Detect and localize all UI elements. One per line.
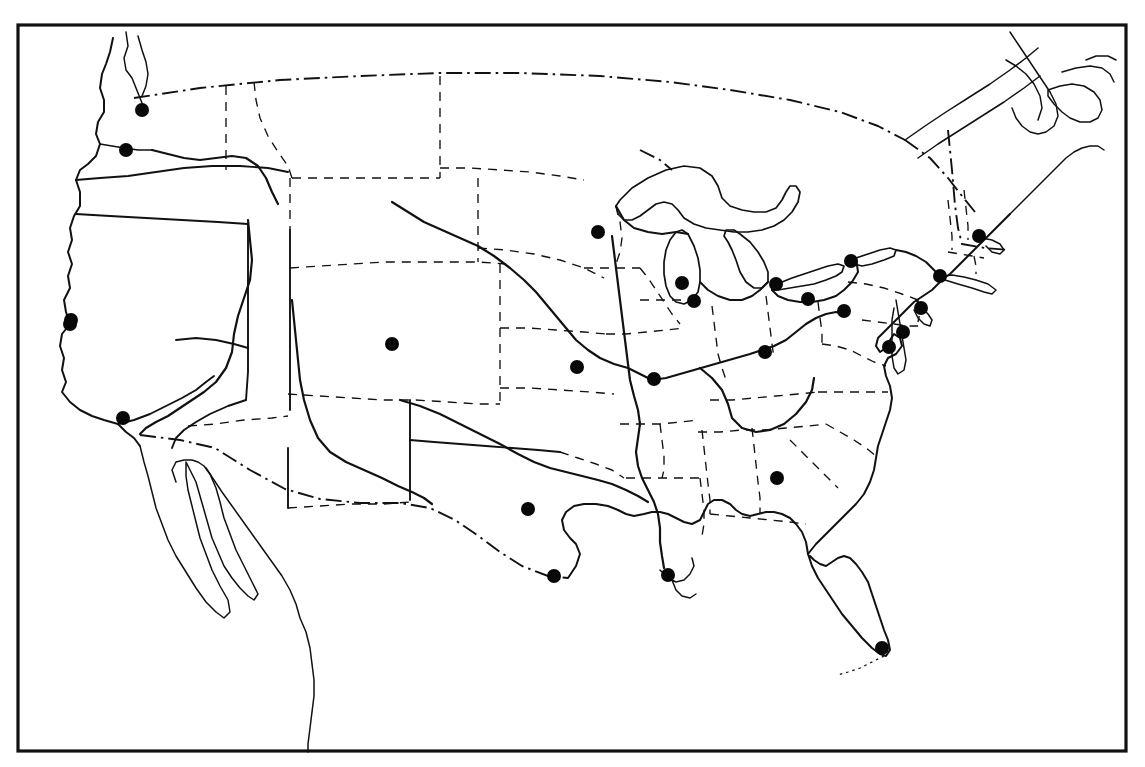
florida-keys — [838, 656, 884, 675]
state-border-ok-tx-east — [560, 452, 624, 478]
city-marker: Seattle — [135, 103, 149, 117]
mississippi-river — [612, 236, 664, 568]
state-border-nm-tx-south — [288, 502, 410, 508]
city-marker: Los Angeles — [116, 411, 130, 425]
state-border-ks-ok — [500, 388, 614, 394]
state-border-oh-pa — [818, 302, 822, 344]
columbia-snake-river — [152, 150, 278, 204]
arkansas-red-river — [400, 400, 648, 502]
city-marker: Buffalo — [844, 254, 858, 268]
state-border-nc-sc — [826, 424, 876, 456]
gulf-st-lawrence — [1062, 56, 1116, 82]
city-marker: Cleveland — [801, 292, 815, 306]
us-mexico-border — [140, 435, 568, 578]
city-marker: Cincinnati — [758, 345, 772, 359]
colorado-river — [140, 220, 252, 434]
state-border-ca-nv-line — [76, 214, 248, 224]
city-marker: Milwaukee — [675, 276, 689, 290]
missouri-river — [392, 202, 652, 380]
baja-california-peninsula — [140, 446, 258, 618]
city-marker: Denver — [385, 337, 399, 351]
state-border-co-nm — [288, 394, 500, 404]
lake-michigan — [664, 230, 700, 304]
state-border-nd-sd — [440, 168, 584, 180]
city-marker: Atlanta — [770, 471, 784, 485]
state-border-ia-il — [640, 268, 680, 324]
state-border-il-in — [712, 306, 726, 380]
city-marker: St. Louis — [647, 372, 661, 386]
st-lawrence-river — [905, 48, 1040, 158]
city-marker: New York — [933, 269, 947, 283]
lake-ontario — [852, 248, 896, 266]
atlantic-coastline — [808, 214, 1010, 554]
lake-superior — [616, 166, 800, 232]
city-marker: Miami — [875, 641, 889, 655]
state-border-id-mt — [254, 82, 292, 178]
city-marker: New Orleans — [661, 568, 675, 582]
state-border-pa-ny — [848, 282, 918, 300]
state-border-mo-ar — [620, 420, 698, 424]
city-marker: Dallas — [521, 502, 535, 516]
city-marker: Philadelphia — [914, 301, 928, 315]
state-border-ga-sc — [790, 440, 838, 488]
lake-huron — [724, 230, 768, 288]
map-frame — [18, 25, 1126, 751]
state-border-ne-ks — [500, 328, 606, 334]
florida-peninsula — [808, 554, 890, 656]
city-marker-layer: SeattlePortlandSan FranciscoLos AngelesD… — [63, 103, 986, 655]
city-marker: Sacramento — [64, 313, 78, 327]
city-marker: Minneapolis — [591, 225, 605, 239]
state-border-vt-nh — [964, 190, 968, 240]
city-marker: Boston — [972, 229, 986, 243]
state-border-wa-or — [76, 166, 288, 180]
state-border-sd-ne — [478, 248, 604, 278]
map-figure: SeattlePortlandSan FranciscoLos AngelesD… — [0, 0, 1145, 767]
us-canada-border-west — [134, 73, 905, 140]
city-marker: Kansas City — [570, 360, 584, 374]
maine-coast-detail — [1010, 146, 1104, 214]
gulf-coast-texas — [562, 500, 808, 578]
state-border-la-ms — [700, 478, 704, 536]
city-marker: Baltimore — [896, 325, 910, 339]
city-marker: Washington DC — [882, 340, 896, 354]
state-border-ar-ms — [660, 424, 664, 478]
state-border-great-basin — [176, 338, 248, 348]
pacific-coastline — [60, 38, 140, 446]
cape-cod — [982, 238, 1004, 254]
us-canada-border-lake-superior — [640, 150, 672, 170]
state-border-ct-ri — [974, 256, 976, 274]
state-border-nevada-east — [246, 224, 248, 400]
map-canvas: SeattlePortlandSan FranciscoLos AngelesD… — [0, 0, 1145, 767]
city-marker: Chicago — [687, 294, 701, 308]
ohio-river — [652, 312, 844, 380]
lake-erie — [772, 264, 844, 290]
city-marker: Detroit — [769, 277, 783, 291]
city-marker: Houston — [547, 569, 561, 583]
long-island — [945, 275, 996, 294]
state-border-wy-co — [290, 262, 506, 268]
state-border-al-ga — [752, 428, 760, 514]
state-border-tx-ok — [410, 440, 560, 452]
state-border-ia-mo — [606, 328, 684, 334]
city-marker: Portland — [119, 143, 133, 157]
us-canada-border-great-lakes — [905, 140, 975, 212]
city-marker: Pittsburgh — [837, 304, 851, 318]
rio-grande — [292, 300, 432, 504]
state-border-ny-vt-nh — [948, 200, 952, 250]
